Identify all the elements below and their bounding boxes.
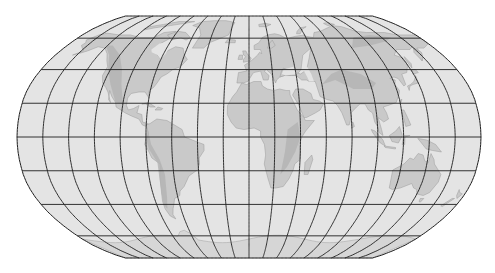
world-map-svg — [0, 0, 495, 273]
world-map — [0, 0, 495, 273]
